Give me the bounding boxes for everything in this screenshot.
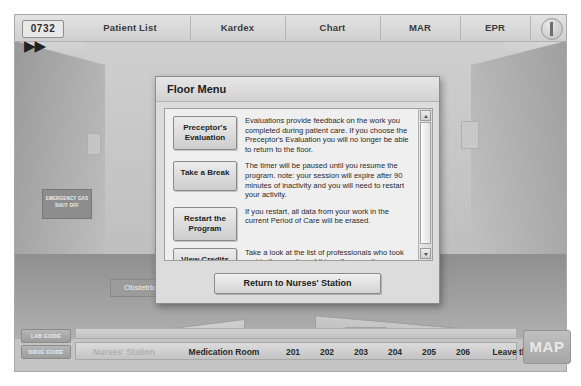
tab-mar[interactable]: MAR xyxy=(380,19,460,37)
info-icon[interactable] xyxy=(541,18,563,40)
emergency-gas-shutoff-sign: EMERGENCY GAS SHUT OFF xyxy=(42,189,92,219)
view-credits-description: Take a look at the list of professionals… xyxy=(237,248,412,261)
nav-room-203[interactable]: 203 xyxy=(346,345,376,359)
take-a-break-button[interactable]: Take a Break xyxy=(173,161,237,191)
nav-room-202[interactable]: 202 xyxy=(312,345,342,359)
tab-kardex[interactable]: Kardex xyxy=(190,19,285,37)
menu-row: View Credits Take a look at the list of … xyxy=(165,241,418,261)
dialog-scrollbar[interactable] xyxy=(418,109,432,260)
restart-the-program-description: If you restart, all data from your work … xyxy=(237,207,412,226)
top-tabs: Patient List Kardex Chart MAR EPR xyxy=(70,15,530,39)
view-credits-button[interactable]: View Credits xyxy=(173,248,237,261)
nav-room-201[interactable]: 201 xyxy=(278,345,308,359)
drug-guide-button[interactable]: DRUG GUIDE xyxy=(21,345,71,359)
wall-panel-left xyxy=(87,133,101,155)
nav-nurses-station[interactable]: Nurses' Station xyxy=(80,345,168,359)
clock-display: 0732 xyxy=(22,20,64,38)
bottom-upper-strip xyxy=(75,328,517,339)
bottom-bar: LAB GUIDE DRUG GUIDE Nurses' Station Med… xyxy=(15,339,566,371)
take-a-break-description: The timer will be paused until you resum… xyxy=(237,161,412,199)
tab-patient-list[interactable]: Patient List xyxy=(70,19,190,37)
lab-guide-button[interactable]: LAB GUIDE xyxy=(21,329,71,343)
scrollbar-thumb[interactable] xyxy=(420,122,431,244)
restart-the-program-button[interactable]: Restart the Program xyxy=(173,207,237,241)
nav-room-204[interactable]: 204 xyxy=(380,345,410,359)
floor-menu-dialog: Floor Menu Preceptor's Evaluation Evalua… xyxy=(155,76,440,304)
scroll-down-arrow-icon[interactable] xyxy=(420,248,431,259)
nav-medication-room[interactable]: Medication Room xyxy=(172,345,276,359)
preceptors-evaluation-button[interactable]: Preceptor's Evaluation xyxy=(173,116,237,150)
fast-forward-icon[interactable]: ▶▶ xyxy=(24,38,62,54)
tab-chart[interactable]: Chart xyxy=(285,19,380,37)
floor-navigation-bar: Nurses' Station Medication Room 201 202 … xyxy=(75,342,517,360)
menu-row: Restart the Program If you restart, all … xyxy=(165,200,418,241)
menu-row: Preceptor's Evaluation Evaluations provi… xyxy=(165,109,418,154)
preceptors-evaluation-description: Evaluations provide feedback on the work… xyxy=(237,116,412,154)
dialog-body: Preceptor's Evaluation Evaluations provi… xyxy=(164,108,433,261)
nav-room-205[interactable]: 205 xyxy=(414,345,444,359)
application-window: EMERGENCY GAS SHUT OFF Obstetrics Patien… xyxy=(0,0,581,386)
tab-epr[interactable]: EPR xyxy=(460,19,530,37)
menu-row: Take a Break The timer will be paused un… xyxy=(165,154,418,199)
map-button[interactable]: MAP xyxy=(523,330,571,364)
nav-room-206[interactable]: 206 xyxy=(448,345,478,359)
menu-options-list: Preceptor's Evaluation Evaluations provi… xyxy=(165,109,418,260)
return-to-nurses-station-button[interactable]: Return to Nurses' Station xyxy=(214,273,381,294)
scroll-up-arrow-icon[interactable] xyxy=(420,110,431,121)
wall-panel-right xyxy=(461,121,479,149)
dialog-title: Floor Menu xyxy=(156,77,439,102)
